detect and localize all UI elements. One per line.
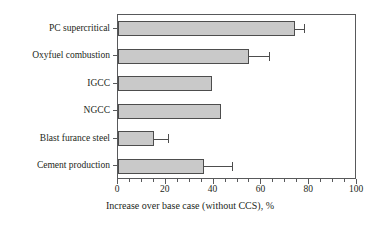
x-axis-minor-tick bbox=[153, 179, 154, 182]
x-axis-tick-label: 40 bbox=[193, 184, 233, 195]
x-axis-minor-tick bbox=[177, 179, 178, 182]
bar-row bbox=[118, 43, 355, 71]
error-bar-line bbox=[295, 29, 305, 30]
bar-row bbox=[118, 15, 355, 43]
bar-chart: PC supercriticalOxyfuel combustionIGCCNG… bbox=[0, 0, 380, 226]
error-bar-line bbox=[249, 56, 268, 57]
x-axis-minor-tick bbox=[237, 179, 238, 182]
bar bbox=[118, 104, 221, 119]
y-axis-label: Blast furance steel bbox=[0, 133, 110, 143]
y-axis-label: NGCC bbox=[0, 105, 110, 115]
bar bbox=[118, 131, 154, 146]
x-axis-minor-tick bbox=[296, 179, 297, 182]
bar-row bbox=[118, 98, 355, 126]
bar bbox=[118, 49, 249, 64]
x-axis-minor-tick bbox=[284, 179, 285, 182]
bar bbox=[118, 76, 212, 91]
x-axis-tick-label: 20 bbox=[145, 184, 185, 195]
error-bar-cap bbox=[232, 162, 233, 171]
bar-row bbox=[118, 153, 355, 181]
x-axis-tick-label: 80 bbox=[288, 184, 328, 195]
error-bar-line bbox=[204, 166, 231, 167]
plot-area bbox=[117, 14, 356, 179]
error-bar-cap bbox=[168, 134, 169, 143]
y-axis-label: Cement production bbox=[0, 160, 110, 170]
x-axis-minor-tick bbox=[248, 179, 249, 182]
bar bbox=[118, 21, 295, 36]
x-axis-minor-tick bbox=[225, 179, 226, 182]
bar bbox=[118, 159, 204, 174]
x-axis-minor-tick bbox=[189, 179, 190, 182]
bar-row bbox=[118, 70, 355, 98]
x-axis-minor-tick bbox=[129, 179, 130, 182]
error-bar-line bbox=[154, 139, 168, 140]
x-axis-minor-tick bbox=[344, 179, 345, 182]
x-axis-minor-tick bbox=[272, 179, 273, 182]
x-axis-minor-tick bbox=[141, 179, 142, 182]
x-axis-tick-label: 60 bbox=[240, 184, 280, 195]
y-axis-label: IGCC bbox=[0, 78, 110, 88]
y-axis-label: Oxyfuel combustion bbox=[0, 50, 110, 60]
x-axis-tick-label: 0 bbox=[97, 184, 137, 195]
x-axis-title: Increase over base case (without CCS), % bbox=[0, 200, 380, 212]
x-axis-minor-tick bbox=[332, 179, 333, 182]
x-axis-minor-tick bbox=[320, 179, 321, 182]
x-axis-tick-label: 100 bbox=[336, 184, 376, 195]
x-axis-minor-tick bbox=[201, 179, 202, 182]
y-axis-label: PC supercritical bbox=[0, 23, 110, 33]
error-bar-cap bbox=[304, 24, 305, 33]
error-bar-cap bbox=[269, 52, 270, 61]
bar-row bbox=[118, 125, 355, 153]
